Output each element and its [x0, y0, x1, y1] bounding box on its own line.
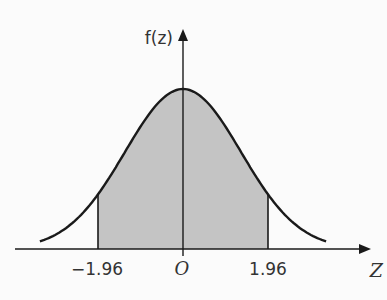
y-axis-label: f(z) [145, 28, 173, 48]
x-axis-label: Z [369, 259, 384, 281]
tick-label-zero: O [175, 258, 190, 279]
tick-label-neg: −1.96 [71, 259, 123, 279]
x-axis-arrow-icon [359, 244, 371, 254]
tick-label-pos: 1.96 [249, 259, 287, 279]
y-axis-arrow-icon [178, 29, 188, 41]
normal-distribution-chart: f(z) Z −1.96 O 1.96 [0, 0, 387, 300]
